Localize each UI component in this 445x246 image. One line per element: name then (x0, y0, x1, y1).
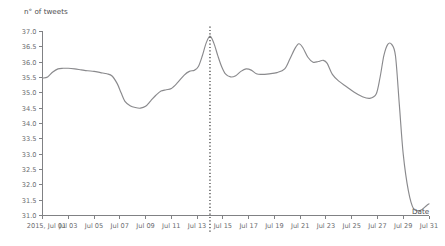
y-tick-label: 33.0 (22, 151, 37, 159)
y-tick-label: 31.0 (22, 212, 37, 220)
y-tick-label: 34.0 (22, 120, 37, 128)
x-tick-label: Jul 25 (341, 222, 360, 230)
x-tick-label: Jul 09 (135, 222, 154, 230)
x-tick-label: Jul 15 (213, 222, 232, 230)
y-tick-label: 32.5 (22, 166, 37, 174)
x-tick-label: Jul 05 (84, 222, 103, 230)
x-tick-label: Jul 21 (290, 222, 309, 230)
y-tick-label: 34.5 (22, 105, 37, 113)
y-axis: 37.036.536.035.535.034.534.033.533.032.5… (22, 28, 43, 220)
x-tick-label: Jul 13 (187, 222, 206, 230)
y-tick-label: 36.5 (22, 43, 37, 51)
y-axis-title: n° of tweets (24, 7, 68, 16)
y-tick-label: 37.0 (22, 28, 37, 36)
y-tick-label: 35.5 (22, 74, 37, 82)
x-tick-label: Jul 29 (393, 222, 412, 230)
x-tick-label: Jul 23 (316, 222, 335, 230)
x-axis-title: Date (412, 207, 430, 216)
x-axis: 2015, Jul 01Jul 03Jul 05Jul 07Jul 09Jul … (27, 216, 438, 230)
data-series-tweets (43, 36, 430, 211)
y-tick-label: 32.0 (22, 181, 37, 189)
x-tick-label: Jul 11 (161, 222, 180, 230)
y-tick-label: 36.0 (22, 59, 37, 67)
y-tick-label: 35.0 (22, 89, 37, 97)
y-tick-label: 33.5 (22, 135, 37, 143)
x-tick-label: Jul 07 (110, 222, 129, 230)
chart-canvas: 37.036.536.035.535.034.534.033.533.032.5… (0, 0, 445, 246)
tweets-trend-line (43, 36, 430, 211)
x-tick-label: Jul 31 (419, 222, 438, 230)
y-tick-label: 31.5 (22, 197, 37, 205)
x-tick-label: Jul 17 (238, 222, 257, 230)
x-tick-label: Jul 19 (264, 222, 283, 230)
tweets-line-chart: 37.036.536.035.535.034.534.033.533.032.5… (0, 0, 445, 246)
x-tick-label: Jul 27 (367, 222, 386, 230)
x-tick-label: Jul 03 (58, 222, 77, 230)
